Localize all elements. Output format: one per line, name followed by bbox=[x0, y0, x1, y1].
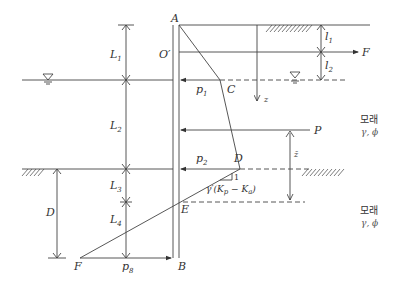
point-E-label: E bbox=[180, 203, 189, 216]
point-A-label: A bbox=[170, 12, 179, 25]
p1-label: p1 bbox=[196, 83, 208, 98]
ground-surface-top bbox=[179, 25, 370, 32]
L3-label: L3 bbox=[109, 179, 122, 194]
p2-label: p2 bbox=[196, 152, 208, 167]
L2-label: L2 bbox=[109, 119, 122, 134]
right-dimension-line bbox=[317, 25, 325, 80]
D-label: D bbox=[45, 206, 55, 219]
l1-label: l1 bbox=[325, 30, 333, 45]
l2-label: l2 bbox=[325, 59, 334, 74]
point-B-label: B bbox=[177, 260, 186, 273]
point-O-prime-label: O′ bbox=[159, 48, 171, 61]
net-pressure-diagram bbox=[80, 169, 240, 258]
resultant-P-label: P bbox=[313, 124, 322, 137]
water-level-icon bbox=[290, 72, 300, 78]
water-level-icon bbox=[43, 74, 53, 80]
point-F-label: F bbox=[73, 260, 82, 273]
point-C-label: C bbox=[227, 83, 236, 96]
soil-layer-1-material: 모래 bbox=[360, 114, 378, 125]
z-label: z bbox=[263, 95, 269, 104]
L1-label: L1 bbox=[109, 48, 122, 63]
anchor-force-F-label: F bbox=[361, 46, 370, 59]
L4-label: L4 bbox=[109, 213, 122, 228]
zbar-label: z̄ bbox=[293, 150, 299, 159]
zbar-dimension bbox=[286, 131, 294, 200]
point-D-label: D bbox=[233, 152, 243, 165]
slope-expression: γ′(Kp − Ka) bbox=[206, 184, 256, 196]
water-table-left bbox=[22, 74, 173, 84]
p8-label: p8 bbox=[122, 260, 134, 275]
sheet-pile-wall bbox=[173, 25, 179, 258]
sheet-pile-diagram: A O′ C D E F B L1 L2 L3 L4 D l1 l2 F P p… bbox=[0, 0, 400, 282]
soil-layer-2-params: γ, ϕ bbox=[361, 218, 378, 228]
soil-layer-1-params: γ, ϕ bbox=[361, 127, 378, 137]
active-pressure-diagram bbox=[179, 25, 240, 169]
slope-one-label: 1 bbox=[234, 173, 239, 182]
dredge-line bbox=[22, 169, 344, 176]
soil-layer-2-material: 모래 bbox=[360, 205, 378, 216]
